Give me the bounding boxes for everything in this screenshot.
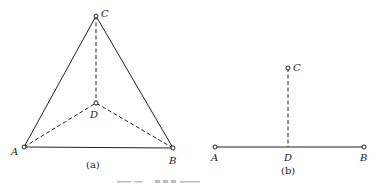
label-b: B [168,155,176,166]
point-b [362,145,366,149]
label-c: C [101,8,109,19]
diagram-canvas: A B C D (a) A B C D (b) [0,0,378,184]
edge-ad-dashed [24,103,96,147]
label-c: C [293,62,301,73]
caption-b: (b) [281,165,295,176]
label-d: D [283,152,292,163]
faded-caption-fragment [117,180,200,183]
label-a: A [210,152,218,163]
label-a: A [10,146,18,157]
label-d: D [89,109,98,120]
point-d [94,101,98,105]
edge-ac [24,16,96,147]
label-b: B [359,152,367,163]
point-c [94,14,98,18]
point-b [171,146,175,150]
edge-bd-dashed [96,103,173,148]
point-a [213,145,217,149]
caption-a: (a) [86,159,100,170]
figure-a: A B C D (a) [10,8,176,170]
edge-ab [24,147,173,148]
edge-bc [96,16,173,148]
point-a [22,145,26,149]
point-c [286,66,290,70]
figure-b: A B C D (b) [210,62,367,176]
